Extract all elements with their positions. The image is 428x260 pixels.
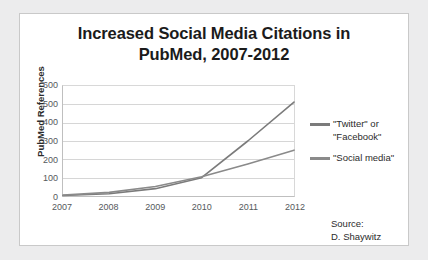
chart-title-line-2: PubMed, 2007-2012 [20, 44, 408, 65]
plot-wrapper: 6005004003002001000 20072008200920102011… [62, 72, 295, 217]
legend-item-label: "Social media" [333, 152, 394, 165]
source-author: D. Shaywitz [331, 231, 381, 244]
legend-swatch-icon [310, 123, 330, 126]
y-axis-tick-labels: 6005004003002001000 [28, 85, 58, 197]
legend-item-0[interactable]: "Twitter" or"Facebook" [310, 118, 408, 143]
y-axis-tick-100: 100 [28, 173, 58, 183]
line-series-1 [63, 150, 294, 195]
x-axis-tick-2007: 2007 [42, 202, 82, 212]
source-note: Source: D. Shaywitz [331, 218, 381, 243]
x-axis-tick-labels: 200720082009201020112012 [62, 199, 295, 217]
legend-swatch-icon [310, 157, 330, 160]
y-axis-tick-400: 400 [28, 117, 58, 127]
chart-legend: "Twitter" or"Facebook""Social media" [310, 118, 408, 174]
y-axis-tick-600: 600 [28, 80, 58, 90]
y-axis-tick-0: 0 [28, 192, 58, 202]
legend-item-1[interactable]: "Social media" [310, 152, 408, 165]
page-title: Increased Social Media Citations in PubM… [20, 23, 408, 65]
x-axis-tick-2009: 2009 [135, 202, 175, 212]
plot-area [62, 85, 295, 197]
line-series-svg [63, 86, 294, 196]
chart-title-line-1: Increased Social Media Citations in [20, 23, 408, 44]
x-axis-tick-2011: 2011 [228, 202, 268, 212]
x-axis-tick-2008: 2008 [89, 202, 129, 212]
legend-item-label: "Twitter" or"Facebook" [333, 118, 381, 143]
source-label: Source: [331, 218, 381, 231]
chart-card: Increased Social Media Citations in PubM… [19, 13, 409, 246]
y-axis-tick-200: 200 [28, 155, 58, 165]
x-axis-tick-2012: 2012 [275, 202, 315, 212]
y-axis-tick-300: 300 [28, 136, 58, 146]
x-axis-tick-2010: 2010 [182, 202, 222, 212]
y-axis-tick-500: 500 [28, 99, 58, 109]
